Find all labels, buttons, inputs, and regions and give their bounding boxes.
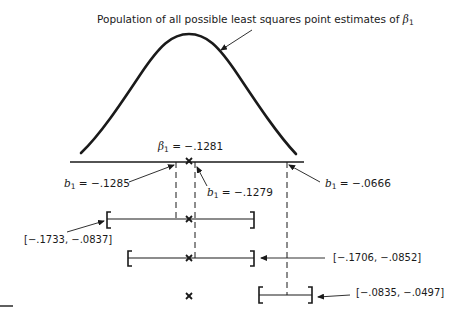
title-arrow bbox=[221, 30, 252, 50]
diagram-graphics bbox=[0, 0, 450, 322]
title-text: Population of all possible least squares… bbox=[97, 13, 399, 25]
estimate-value: = −.0666 bbox=[337, 177, 391, 189]
normal-distribution-curve bbox=[81, 34, 296, 154]
estimate-symbol: b bbox=[64, 177, 71, 189]
estimate-3-label: b1 = −.0666 bbox=[325, 178, 391, 191]
estimate-value: = −.1279 bbox=[219, 186, 273, 198]
interval-3-arrow bbox=[318, 295, 350, 297]
interval-1-arrow bbox=[67, 221, 104, 232]
estimate-symbol: b bbox=[207, 186, 214, 198]
interval-1-label: [−.1733, −.0837] bbox=[24, 235, 112, 245]
estimate-value: = −.1285 bbox=[76, 177, 130, 189]
estimate-3-arrow bbox=[289, 165, 320, 182]
interval-3-label: [−.0835, −.0497] bbox=[356, 288, 444, 298]
confidence-interval-2 bbox=[128, 251, 254, 266]
true-beta-marker bbox=[186, 158, 192, 164]
diagram-title: Population of all possible least squares… bbox=[97, 14, 414, 27]
beta-value: = −.1281 bbox=[169, 140, 223, 152]
estimate-2-label: b1 = −.1279 bbox=[207, 187, 273, 200]
title-beta-subscript: 1 bbox=[409, 18, 414, 27]
confidence-interval-1 bbox=[107, 212, 254, 228]
estimate-2-arrow bbox=[197, 167, 207, 186]
confidence-interval-3 bbox=[259, 287, 312, 303]
estimate-1-arrow bbox=[129, 165, 174, 182]
estimate-symbol: b bbox=[325, 177, 332, 189]
true-beta-label: β1 = −.1281 bbox=[158, 141, 223, 154]
interval-2-label: [−.1706, −.0852] bbox=[333, 253, 421, 263]
interval-3-beta-marker bbox=[186, 293, 192, 299]
sampling-distribution-diagram: Population of all possible least squares… bbox=[0, 0, 450, 322]
estimate-1-label: b1 = −.1285 bbox=[64, 178, 130, 191]
